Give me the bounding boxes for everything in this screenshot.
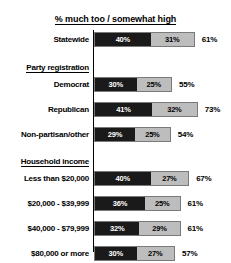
row-label: Statewide: [0, 30, 89, 49]
section-header-text: Party registration: [26, 63, 89, 73]
stacked-bar: 30%27%: [94, 246, 175, 261]
chart-row: Non-partisan/other29%25%54%: [0, 125, 231, 144]
section-header-text: Household income: [21, 157, 89, 167]
section-header-label: Household income: [0, 155, 89, 168]
stacked-bar: 32%29%: [94, 221, 181, 236]
bar-segment-much-too-high: 40%: [95, 33, 151, 46]
stacked-bar: 30%25%: [94, 77, 172, 92]
bar-segment-somewhat-high: 25%: [135, 128, 170, 141]
row-label: $40,000 - $79,999: [0, 219, 89, 238]
bar-segment-much-too-high: 36%: [95, 197, 145, 210]
bar-segment-somewhat-high: 27%: [151, 172, 189, 185]
chart-row: $40,000 - $79,99932%29%61%: [0, 219, 231, 238]
plot-area: Statewide40%31%61%Party registrationDemo…: [0, 30, 231, 255]
row-total: 57%: [182, 246, 197, 261]
row-label: Less than $20,000: [0, 169, 89, 188]
bar-segment-somewhat-high: 29%: [139, 222, 179, 235]
bar-segment-somewhat-high: 27%: [137, 247, 174, 260]
chart-row: Democrat30%25%55%: [0, 75, 231, 94]
chart-row: Less than $20,00040%27%67%: [0, 169, 231, 188]
bar-segment-somewhat-high: 32%: [152, 103, 197, 116]
chart-container: % much too / somewhat high Statewide40%3…: [0, 0, 231, 263]
bar-segment-much-too-high: 41%: [95, 103, 152, 116]
stacked-bar: 40%31%: [94, 32, 195, 47]
row-label: Democrat: [0, 75, 89, 94]
stacked-bar: 41%32%: [94, 102, 198, 117]
row-total: 67%: [196, 171, 211, 186]
chart-row: Statewide40%31%61%: [0, 30, 231, 49]
chart-title-text: % much too / somewhat high: [55, 14, 176, 25]
row-total: 55%: [179, 77, 194, 92]
chart-row: $20,000 - $39,99936%25%61%: [0, 194, 231, 213]
bar-segment-much-too-high: 29%: [95, 128, 135, 141]
bar-segment-much-too-high: 30%: [95, 78, 137, 91]
stacked-bar: 36%25%: [94, 196, 181, 211]
chart-row: Republican41%32%73%: [0, 100, 231, 119]
bar-segment-somewhat-high: 25%: [145, 197, 180, 210]
row-label: Republican: [0, 100, 89, 119]
stacked-bar: 40%27%: [94, 171, 189, 186]
bar-segment-somewhat-high: 31%: [151, 33, 194, 46]
row-total: 73%: [205, 102, 220, 117]
section-header: Household income: [0, 155, 231, 169]
bar-segment-much-too-high: 32%: [95, 222, 139, 235]
row-label: Non-partisan/other: [0, 125, 89, 144]
row-label: $20,000 - $39,999: [0, 194, 89, 213]
stacked-bar: 29%25%: [94, 127, 171, 142]
row-label: $80,000 or more: [0, 244, 89, 263]
row-total: 54%: [178, 127, 193, 142]
row-total: 61%: [188, 196, 203, 211]
bar-segment-much-too-high: 40%: [95, 172, 151, 185]
section-header-label: Party registration: [0, 61, 89, 74]
row-total: 61%: [202, 32, 217, 47]
row-total: 61%: [188, 221, 203, 236]
bar-segment-somewhat-high: 25%: [137, 78, 172, 91]
chart-row: $80,000 or more30%27%57%: [0, 244, 231, 263]
section-header: Party registration: [0, 61, 231, 75]
chart-title: % much too / somewhat high: [0, 14, 231, 24]
bar-segment-much-too-high: 30%: [95, 247, 137, 260]
